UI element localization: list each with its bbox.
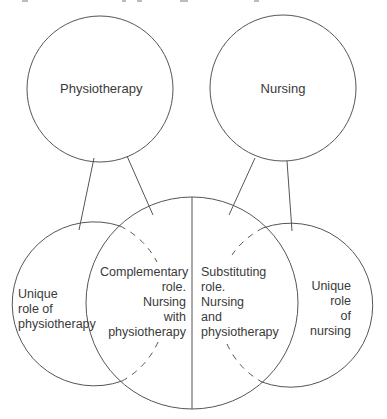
diagram-shapes — [0, 0, 387, 419]
connector-physio-to-unique — [79, 158, 94, 230]
substituting-role-label: Substituting role. Nursing and physiothe… — [201, 265, 279, 340]
connector-nursing-to-substituting — [229, 158, 255, 215]
label-line: and — [201, 310, 279, 325]
label-line: nursing — [300, 324, 351, 339]
connector-nursing-to-unique — [287, 161, 292, 231]
label-line: role. — [201, 280, 279, 295]
unique-nursing-dashed-arc-bottom — [227, 344, 262, 382]
label-line: Complementary — [100, 265, 186, 280]
unique-nursing-label: Unique role of nursing — [300, 279, 351, 339]
label-line: Nursing — [201, 295, 279, 310]
label-line: physiotherapy — [201, 325, 279, 340]
label-line: with — [100, 310, 186, 325]
label-line: of — [300, 309, 351, 324]
nursing-label: Nursing — [243, 81, 323, 96]
label-line: Unique — [18, 287, 96, 302]
label-line: Unique — [300, 279, 351, 294]
label-line: Substituting — [201, 265, 279, 280]
label-line: physiotherapy — [100, 325, 186, 340]
role-overlap-diagram: Physiotherapy Nursing Unique role of phy… — [0, 0, 387, 419]
unique-nursing-dashed-arc-top — [232, 228, 263, 255]
physiotherapy-label: Physiotherapy — [60, 81, 140, 96]
unique-physiotherapy-label: Unique role of physiotherapy — [18, 287, 96, 332]
label-line: role of — [18, 302, 96, 317]
unique-physiotherapy-dashed-arc-top — [120, 226, 157, 262]
label-line: role. — [100, 280, 186, 295]
unique-physiotherapy-dashed-arc-bottom — [122, 342, 158, 381]
label-line: role — [300, 294, 351, 309]
label-line: Nursing — [100, 295, 186, 310]
label-line: physiotherapy — [18, 317, 96, 332]
complementary-role-label: Complementary role. Nursing with physiot… — [100, 265, 186, 340]
